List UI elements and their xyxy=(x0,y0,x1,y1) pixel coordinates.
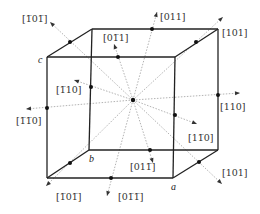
cube-edge xyxy=(89,29,92,150)
direction-label: [011] xyxy=(160,11,186,22)
vertex-label-a: a xyxy=(171,181,176,192)
center-dot xyxy=(131,98,135,102)
cube-edge xyxy=(173,150,218,178)
arrowhead-icon xyxy=(154,12,158,17)
edge-midpoint-dot xyxy=(109,176,113,180)
direction-label: [101] xyxy=(222,27,248,38)
arrowhead-icon xyxy=(217,179,222,184)
direction-line xyxy=(133,100,153,163)
arrowhead-icon xyxy=(235,91,240,95)
edge-midpoint-dot xyxy=(197,160,201,164)
edge-midpoint-dot xyxy=(150,27,154,31)
vertex-label-c: c xyxy=(38,54,43,65)
direction-label: [110] xyxy=(220,101,246,112)
cube-edge xyxy=(47,150,89,178)
edge-midpoint-dot xyxy=(116,55,120,59)
arrowhead-icon xyxy=(74,80,79,84)
direction-label: [1̅01̅] xyxy=(22,13,48,24)
cube-edge xyxy=(173,57,175,178)
arrowhead-icon xyxy=(114,44,118,49)
edge-midpoint-dot xyxy=(148,148,152,152)
direction-line xyxy=(133,93,240,100)
arrowhead-icon xyxy=(26,107,31,111)
arrowhead-icon xyxy=(46,181,51,186)
arrowhead-icon xyxy=(218,17,223,22)
direction-label: [1̅10] xyxy=(56,84,82,95)
arrowhead-icon xyxy=(50,22,55,27)
direction-line xyxy=(133,100,197,124)
direction-label: [01̅1̅] xyxy=(118,191,144,202)
edge-midpoint-dot xyxy=(68,40,72,44)
edge-midpoint-dot xyxy=(194,40,198,44)
direction-label: [011̅] xyxy=(130,161,156,172)
edge-midpoint-dot xyxy=(68,161,72,165)
direction-line xyxy=(26,100,133,109)
edge-midpoint-dot xyxy=(173,113,177,117)
edge-midpoint-dot xyxy=(216,93,220,97)
direction-label: [101] xyxy=(222,167,248,178)
vertex-label-b: b xyxy=(89,153,94,164)
direction-label: [1̅1̅0] xyxy=(16,115,42,126)
direction-label: [1̅01̅] xyxy=(56,191,82,202)
direction-line xyxy=(133,12,157,100)
direction-line xyxy=(74,80,133,100)
direction-labels: [1̅01̅][01̅1][011][101][1̅10][1̅1̅0][110… xyxy=(16,11,248,202)
edge-midpoint-dot xyxy=(45,106,49,110)
direction-line xyxy=(107,100,133,196)
cubic-cell-diagram: [1̅01̅][01̅1][011][101][1̅10][1̅1̅0][110… xyxy=(0,0,260,214)
edge-midpoint-dot xyxy=(89,85,93,89)
arrowhead-icon xyxy=(106,191,110,196)
direction-label: [11̅0] xyxy=(188,132,214,143)
direction-label: [01̅1] xyxy=(103,32,129,43)
arrowhead-icon xyxy=(192,120,197,124)
